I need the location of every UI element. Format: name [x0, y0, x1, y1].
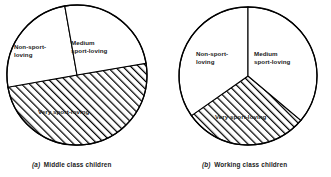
caption-working-class: (b)Working class children [202, 160, 287, 169]
pie-chart-middle-class: Non-sport- loving Medium sport-loving Ve… [0, 0, 166, 177]
caption-tag-b: (b) [202, 161, 211, 168]
pie-chart-figure: Non-sport- loving Medium sport-loving Ve… [0, 0, 331, 177]
caption-text-a: Middle class children [44, 161, 112, 168]
pie-graphic-working-class [166, 0, 331, 155]
caption-text-b: Working class children [214, 161, 287, 168]
pie-chart-working-class: Non-sport- loving Medium sport-loving Ve… [166, 0, 331, 177]
caption-tag-a: (a) [32, 161, 40, 168]
pie-graphic-middle-class [0, 0, 166, 155]
caption-middle-class: (a)Middle class children [32, 160, 112, 169]
pie-slice-medium-sport-loving [65, 5, 146, 75]
